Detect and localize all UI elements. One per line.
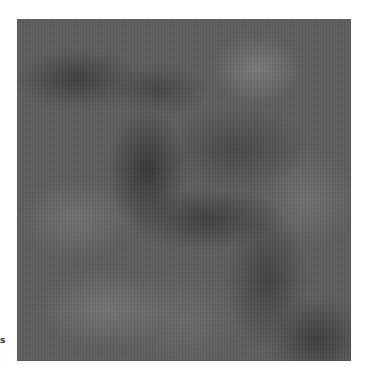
clipped-margin-glyph: s xyxy=(0,335,5,345)
clipped-margin-text-line: · xyxy=(0,350,2,356)
noise-grain-overlay xyxy=(17,19,351,361)
clipped-margin-text-line: · xyxy=(0,357,2,363)
